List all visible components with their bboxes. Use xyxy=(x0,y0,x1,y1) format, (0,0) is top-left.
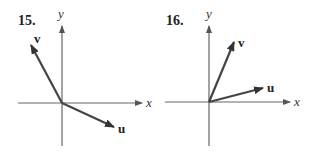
vector-v xyxy=(209,42,234,102)
vector-v xyxy=(31,45,62,103)
vector-u-label: u xyxy=(118,121,125,136)
vector-v-label: v xyxy=(34,31,41,46)
figure-number: 16. xyxy=(166,13,184,28)
figure-16: 16. y x v u xyxy=(165,6,300,146)
vector-u xyxy=(209,88,263,102)
vector-u xyxy=(62,103,114,127)
vector-diagrams: 15. y x v u 16. y x v u xyxy=(0,0,321,155)
vector-u-label: u xyxy=(267,80,274,95)
x-axis-label: x xyxy=(145,95,152,110)
vector-v-label: v xyxy=(238,35,245,50)
y-axis-label: y xyxy=(56,6,64,21)
y-axis-label: y xyxy=(204,6,212,21)
figure-15: 15. y x v u xyxy=(18,6,152,146)
x-axis-label: x xyxy=(293,94,300,109)
figure-number: 15. xyxy=(18,13,36,28)
